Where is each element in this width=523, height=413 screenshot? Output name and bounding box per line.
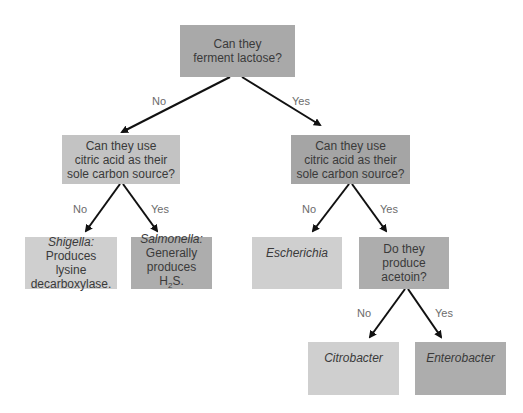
node-escherichia: Escherichia (252, 237, 342, 289)
genus-name: Salmonella (140, 232, 199, 246)
node-text: Do they (383, 242, 424, 256)
node-citrobacter: Citrobacter (308, 342, 399, 395)
genus-name: Citrobacter (324, 351, 383, 365)
node-ferment-lactose: Can theyferment lactose? (180, 25, 295, 77)
edge-label-right-no: No (302, 203, 316, 215)
genus-name: Shigella (48, 235, 91, 249)
edge-label-root-no: No (152, 95, 166, 107)
node-text: Can they (213, 37, 261, 51)
arrow-right-no (313, 184, 349, 231)
arrow-acetoin-no (370, 289, 405, 337)
node-text: decarboxylase. (31, 277, 112, 291)
genus-name: Escherichia (266, 246, 328, 260)
node-text: Produces lysine (46, 249, 97, 277)
node-citric-acid-right: Can they usecitric acid as theirsole car… (291, 135, 410, 184)
edge-label-right-yes: Yes (380, 203, 398, 215)
node-text: acetoin? (381, 270, 426, 284)
node-text: Can they use (86, 139, 157, 153)
edge-label-acetoin-yes: Yes (435, 307, 453, 319)
node-citric-acid-left: Can they usecitric acid as theirsole car… (62, 135, 180, 184)
node-text: citric acid as their (75, 153, 168, 167)
edge-label-left-no: No (73, 203, 87, 215)
edge-label-left-yes: Yes (151, 203, 169, 215)
edge-label-acetoin-no: No (357, 307, 371, 319)
node-salmonella: Salmonella:Generallyproduces H2S. (131, 237, 212, 289)
node-enterobacter: Enterobacter (415, 342, 506, 395)
genus-name: Enterobacter (426, 351, 495, 365)
node-text: sole carbon source? (67, 167, 175, 181)
node-acetoin: Do theyproduceacetoin? (359, 237, 449, 289)
node-text: citric acid as their (304, 153, 397, 167)
node-text: Can they use (315, 139, 386, 153)
node-shigella: Shigella:Produces lysinedecarboxylase. (25, 237, 117, 289)
node-text: produce (382, 256, 425, 270)
node-text: ferment lactose? (193, 51, 282, 65)
arrow-left-no (86, 184, 120, 231)
node-text: S. (172, 274, 183, 288)
arrow-root-no (122, 77, 230, 132)
edge-label-root-yes: Yes (292, 95, 310, 107)
node-text: sole carbon source? (296, 167, 404, 181)
node-text: Generally (146, 246, 197, 260)
